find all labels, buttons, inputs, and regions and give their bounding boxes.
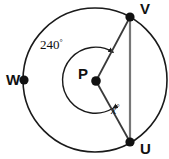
- angle-label-x: x°: [110, 103, 120, 118]
- point-v-dot: [125, 12, 134, 21]
- angle-240-degree-symbol: °: [60, 38, 63, 47]
- geometry-figure: V U W P 240° x°: [0, 0, 169, 159]
- point-label-p: P: [78, 65, 88, 82]
- point-w-dot: [19, 75, 28, 84]
- point-label-w: W: [6, 71, 21, 88]
- angle-x-degree-symbol: °: [116, 103, 120, 112]
- point-label-v: V: [140, 0, 150, 17]
- point-p-dot: [91, 76, 101, 86]
- point-u-dot: [125, 137, 134, 146]
- angle-240-value: 240: [40, 37, 60, 52]
- circle-geometry-svg: V U W P 240° x°: [0, 0, 169, 159]
- reflex-angle-arc: [63, 47, 114, 113]
- angle-label-240: 240°: [40, 37, 63, 52]
- point-label-u: U: [140, 140, 151, 157]
- radius-pv: [96, 17, 130, 81]
